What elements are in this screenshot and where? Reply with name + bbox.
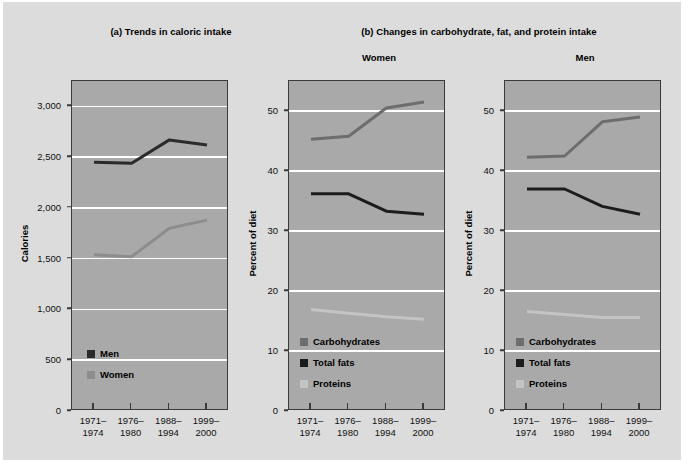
y-tick-mark bbox=[500, 349, 504, 351]
y-tick-label: 20 bbox=[476, 285, 494, 296]
legend-label: Proteins bbox=[529, 378, 567, 389]
x-tick-mark bbox=[601, 403, 603, 410]
x-tick-mark bbox=[563, 403, 565, 410]
legend-label: Carbohydrates bbox=[529, 336, 596, 347]
legend-label: Total fats bbox=[529, 357, 571, 368]
x-tick-mark bbox=[638, 403, 640, 410]
x-tick-label: 1999–2000 bbox=[612, 415, 666, 439]
y-tick-mark bbox=[500, 409, 504, 411]
y-tick-mark bbox=[500, 229, 504, 231]
series-line-proteins bbox=[527, 311, 640, 317]
x-tick-mark bbox=[525, 403, 527, 410]
y-axis-title: Percent of diet bbox=[463, 184, 474, 304]
chart-men-macronutrients: 01020304050Percent of diet1971–19741976–… bbox=[0, 0, 693, 473]
y-tick-label: 40 bbox=[476, 165, 494, 176]
legend-item: Total fats bbox=[516, 357, 571, 368]
y-tick-mark bbox=[500, 289, 504, 291]
series-line-total-fats bbox=[527, 189, 640, 214]
y-tick-label: 0 bbox=[476, 405, 494, 416]
y-tick-label: 30 bbox=[476, 225, 494, 236]
figure-root: (a) Trends in caloric intake (b) Changes… bbox=[0, 0, 693, 473]
x-tick-label-line2: 2000 bbox=[612, 427, 666, 439]
legend-swatch-total-fats bbox=[516, 359, 524, 367]
legend-swatch-proteins bbox=[516, 380, 524, 388]
y-tick-mark bbox=[500, 109, 504, 111]
legend-swatch-carbohydrates bbox=[516, 338, 524, 346]
y-tick-mark bbox=[500, 169, 504, 171]
y-tick-label: 50 bbox=[476, 105, 494, 116]
series-line-carbohydrates bbox=[527, 117, 640, 157]
legend-item: Proteins bbox=[516, 378, 567, 389]
x-tick-label-line1: 1999– bbox=[612, 415, 666, 427]
legend-item: Carbohydrates bbox=[516, 336, 596, 347]
y-tick-label: 10 bbox=[476, 345, 494, 356]
